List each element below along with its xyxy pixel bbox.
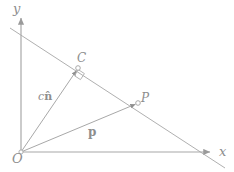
point-marker-C — [76, 66, 81, 71]
point-label-C: C — [77, 52, 86, 64]
position-vector-arrow — [21, 104, 136, 152]
point-marker-P — [136, 101, 141, 106]
normal-unit-vector: n — [44, 90, 52, 103]
normal-vector-label: cn̂ — [38, 91, 52, 102]
x-axis-label: x — [219, 145, 226, 158]
figure-canvas — [0, 0, 234, 172]
point-label-P: P — [141, 92, 149, 104]
origin-label: O — [12, 152, 23, 165]
position-vector-label: p — [88, 126, 96, 138]
y-axis-label: y — [13, 2, 20, 15]
geometry-figure: y x O C P cn̂ p — [0, 0, 234, 172]
normal-vector-arrow — [21, 71, 77, 153]
